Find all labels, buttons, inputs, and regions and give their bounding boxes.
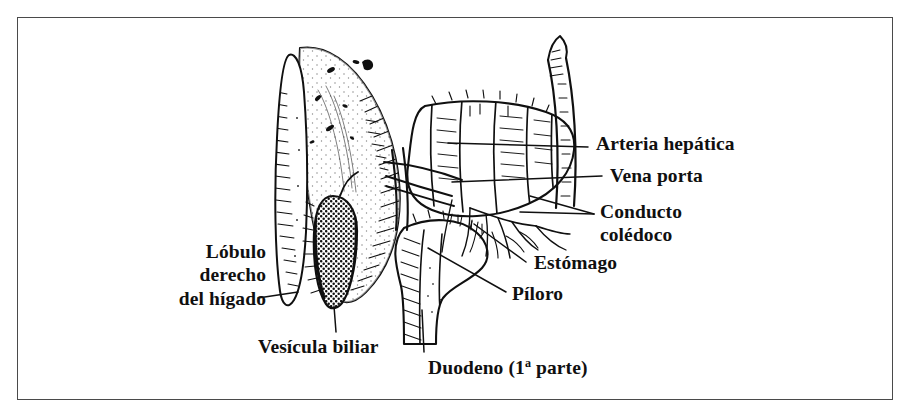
stomach <box>407 90 574 216</box>
label-arteria-hepatica: Arteria hepática <box>596 133 735 155</box>
leader-conducto-coledoco-b <box>530 196 594 214</box>
label-lobulo-line3: del hígado <box>70 287 266 310</box>
label-vena-porta: Vena porta <box>610 165 703 187</box>
label-estomago: Estómago <box>534 252 617 274</box>
leader-conducto-coledoco <box>520 212 594 214</box>
label-duodeno-prefix: Duodeno (1 <box>428 357 525 378</box>
label-lobulo-line1: Lóbulo <box>70 240 266 263</box>
label-conducto-coledoco: Conducto colédoco <box>600 200 682 246</box>
duodenum <box>395 210 487 344</box>
label-vesicula-biliar: Vesícula biliar <box>258 336 379 358</box>
figure-page: Arteria hepática Vena porta Conducto col… <box>0 0 910 417</box>
label-duodeno-suffix: parte) <box>531 357 587 378</box>
label-lobulo-derecho-del-higado: Lóbulo derecho del hígado <box>70 240 266 310</box>
label-duodeno-primera-parte: Duodeno (1a parte) <box>428 357 588 379</box>
anatomy-illustration <box>0 0 910 417</box>
label-conducto-line2: colédoco <box>600 223 682 246</box>
label-conducto-line1: Conducto <box>600 200 682 223</box>
leader-vesicula-biliar <box>334 306 336 332</box>
liver-lappet <box>274 55 307 306</box>
label-lobulo-line2: derecho <box>70 263 266 286</box>
label-piloro: Píloro <box>512 283 563 305</box>
